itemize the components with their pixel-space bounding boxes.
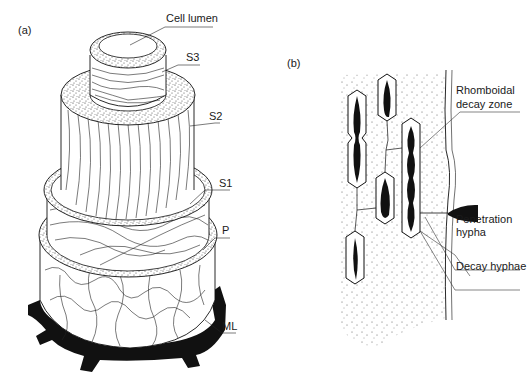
label-ml: ML <box>222 320 237 333</box>
label-penetration-line1: Penetration <box>456 213 512 226</box>
cell-wall-figure: (a) Cell lumen S3 S2 S1 P ML (b) Rhomboi… <box>0 0 531 377</box>
panel-b-letter: (b) <box>287 57 300 69</box>
diagram-drawing <box>0 0 531 377</box>
panel-a-drawing <box>28 27 236 372</box>
label-rhomboidal-line2: decay zone <box>456 98 512 111</box>
label-s1: S1 <box>219 177 232 190</box>
label-penetration-line2: hypha <box>456 226 486 239</box>
label-s2: S2 <box>209 110 222 123</box>
label-rhomboidal-line1: Rhomboidal <box>456 84 515 97</box>
panel-a-letter: (a) <box>18 24 31 36</box>
label-decay-hyphae: Decay hyphae <box>456 260 526 273</box>
label-s3: S3 <box>186 51 199 64</box>
label-cell-lumen: Cell lumen <box>166 12 218 25</box>
label-p: P <box>222 224 229 237</box>
panel-b-drawing <box>338 70 520 346</box>
